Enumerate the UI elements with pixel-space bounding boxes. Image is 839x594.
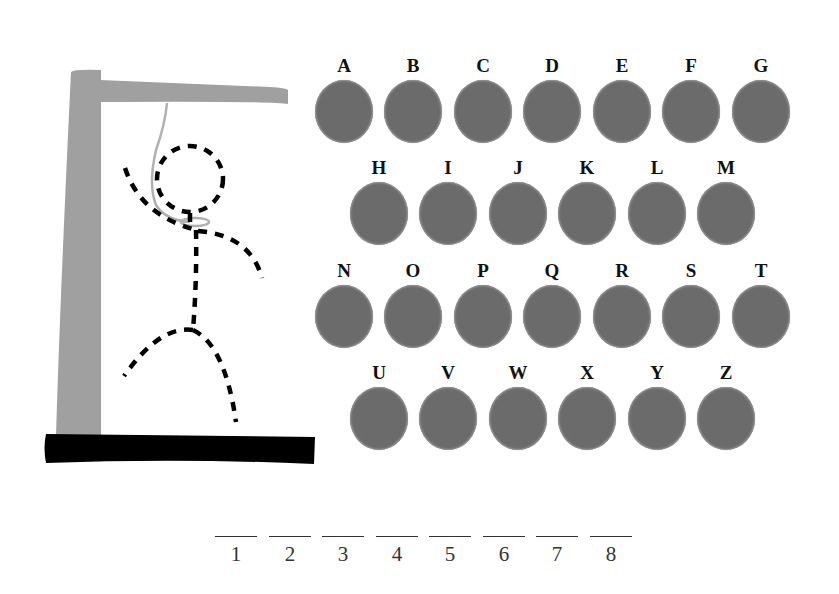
- figure-right-leg: [193, 330, 236, 422]
- blank-line: [269, 536, 311, 537]
- slot-number: 4: [376, 542, 418, 567]
- letter-circle[interactable]: [628, 182, 686, 245]
- letter-button-i[interactable]: I: [419, 158, 477, 244]
- letter-circle[interactable]: [558, 387, 616, 450]
- letter-circle[interactable]: [350, 387, 408, 450]
- letter-circle[interactable]: [419, 387, 477, 450]
- letter-circle[interactable]: [558, 182, 616, 245]
- letter-label: O: [384, 261, 442, 281]
- blank-line: [215, 536, 257, 537]
- blank-line: [376, 536, 418, 537]
- letter-label: N: [315, 261, 373, 281]
- letter-circle[interactable]: [697, 182, 755, 245]
- letter-circle[interactable]: [662, 80, 720, 143]
- letter-label: V: [419, 363, 477, 383]
- letter-circle[interactable]: [523, 285, 581, 348]
- letter-button-w[interactable]: W: [489, 363, 547, 449]
- letter-label: C: [454, 56, 512, 76]
- hangman-gallows: [0, 0, 330, 480]
- letter-button-u[interactable]: U: [350, 363, 408, 449]
- letter-button-y[interactable]: Y: [628, 363, 686, 449]
- word-slot-3: 3: [322, 528, 364, 568]
- letter-label: F: [662, 56, 720, 76]
- letter-button-n[interactable]: N: [315, 261, 373, 347]
- letter-button-b[interactable]: B: [384, 56, 442, 142]
- letter-button-e[interactable]: E: [593, 56, 651, 142]
- letter-label: G: [732, 56, 790, 76]
- gallows-post: [56, 70, 101, 436]
- letter-label: M: [697, 158, 755, 178]
- letter-button-p[interactable]: P: [454, 261, 512, 347]
- letter-circle[interactable]: [454, 80, 512, 143]
- letter-button-f[interactable]: F: [662, 56, 720, 142]
- gallows-beam: [100, 80, 288, 104]
- letter-button-z[interactable]: Z: [697, 363, 755, 449]
- letter-label: H: [350, 158, 408, 178]
- slot-number: 7: [536, 542, 578, 567]
- letter-circle[interactable]: [593, 285, 651, 348]
- letter-label: L: [628, 158, 686, 178]
- letter-label: B: [384, 56, 442, 76]
- letter-label: P: [454, 261, 512, 281]
- letter-circle[interactable]: [384, 80, 442, 143]
- letter-button-v[interactable]: V: [419, 363, 477, 449]
- letter-button-a[interactable]: A: [315, 56, 373, 142]
- figure-right-arm: [198, 231, 262, 278]
- letter-circle[interactable]: [523, 80, 581, 143]
- figure-body: [193, 230, 196, 330]
- letter-button-t[interactable]: T: [732, 261, 790, 347]
- letter-button-c[interactable]: C: [454, 56, 512, 142]
- figure-head: [157, 146, 223, 212]
- letter-button-o[interactable]: O: [384, 261, 442, 347]
- blank-line: [322, 536, 364, 537]
- letter-circle[interactable]: [593, 80, 651, 143]
- letter-button-r[interactable]: R: [593, 261, 651, 347]
- word-slot-1: 1: [215, 528, 257, 568]
- letter-button-l[interactable]: L: [628, 158, 686, 244]
- figure-left-leg: [124, 330, 193, 376]
- letter-label: E: [593, 56, 651, 76]
- letter-label: J: [489, 158, 547, 178]
- letter-label: R: [593, 261, 651, 281]
- letter-button-h[interactable]: H: [350, 158, 408, 244]
- letter-circle[interactable]: [315, 285, 373, 348]
- word-slot-8: 8: [590, 528, 632, 568]
- letter-circle[interactable]: [384, 285, 442, 348]
- blank-line: [590, 536, 632, 537]
- letter-button-x[interactable]: X: [558, 363, 616, 449]
- word-slot-7: 7: [536, 528, 578, 568]
- letter-circle[interactable]: [350, 182, 408, 245]
- slot-number: 3: [322, 542, 364, 567]
- letter-circle[interactable]: [489, 182, 547, 245]
- slot-number: 1: [215, 542, 257, 567]
- letter-button-m[interactable]: M: [697, 158, 755, 244]
- letter-button-k[interactable]: K: [558, 158, 616, 244]
- blank-line: [429, 536, 471, 537]
- letter-label: Z: [697, 363, 755, 383]
- letter-circle[interactable]: [628, 387, 686, 450]
- letter-button-d[interactable]: D: [523, 56, 581, 142]
- letter-button-q[interactable]: Q: [523, 261, 581, 347]
- letter-circle[interactable]: [697, 387, 755, 450]
- letter-circle[interactable]: [315, 80, 373, 143]
- slot-number: 2: [269, 542, 311, 567]
- word-slot-4: 4: [376, 528, 418, 568]
- letter-circle[interactable]: [732, 80, 790, 143]
- letter-circle[interactable]: [732, 285, 790, 348]
- letter-circle[interactable]: [454, 285, 512, 348]
- letter-label: W: [489, 363, 547, 383]
- letter-label: Y: [628, 363, 686, 383]
- letter-label: Q: [523, 261, 581, 281]
- letter-circle[interactable]: [489, 387, 547, 450]
- letter-label: I: [419, 158, 477, 178]
- letter-button-g[interactable]: G: [732, 56, 790, 142]
- letter-label: T: [732, 261, 790, 281]
- letter-circle[interactable]: [662, 285, 720, 348]
- letter-circle[interactable]: [419, 182, 477, 245]
- letter-label: K: [558, 158, 616, 178]
- letter-label: A: [315, 56, 373, 76]
- letter-button-j[interactable]: J: [489, 158, 547, 244]
- letter-button-s[interactable]: S: [662, 261, 720, 347]
- letter-label: S: [662, 261, 720, 281]
- blank-line: [536, 536, 578, 537]
